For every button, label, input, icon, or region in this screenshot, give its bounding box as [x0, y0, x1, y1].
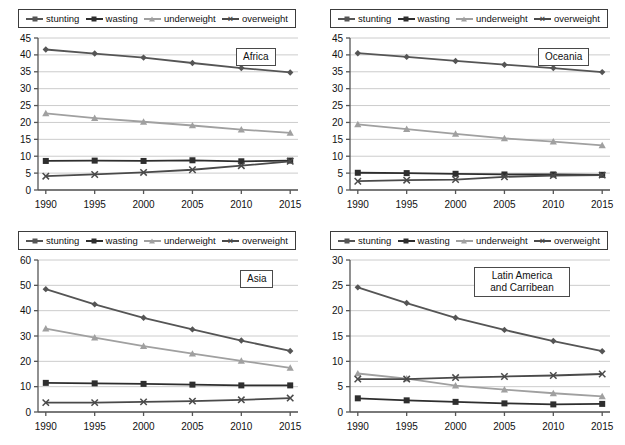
data-point-wasting: [189, 157, 195, 163]
y-tick-label: 40: [20, 49, 32, 60]
data-point-wasting: [599, 401, 605, 407]
x-tick-label: 1990: [35, 421, 58, 432]
data-point-stunting: [91, 50, 97, 56]
legend-label: underweight: [476, 236, 528, 246]
legend-item-underweight[interactable]: underweight: [144, 14, 216, 24]
data-point-stunting: [140, 315, 146, 321]
series-line-underweight: [46, 329, 290, 368]
legend-item-wasting[interactable]: wasting: [398, 236, 450, 246]
y-tick-label: 15: [332, 331, 344, 342]
data-point-stunting: [452, 58, 458, 64]
y-tick-label: 30: [20, 83, 32, 94]
data-point-stunting: [238, 337, 244, 343]
x-tick-label: 2000: [444, 421, 467, 432]
x-tick-label: 2005: [181, 199, 204, 210]
series-line-wasting: [358, 398, 602, 404]
x-tick-label: 2000: [132, 421, 155, 432]
legend-marker-square: [404, 16, 409, 21]
data-point-stunting: [43, 286, 49, 292]
series-line-overweight: [358, 175, 602, 181]
data-point-stunting: [599, 69, 605, 75]
legend-item-stunting[interactable]: stunting: [26, 236, 79, 246]
y-tick-label: 35: [332, 66, 344, 77]
y-tick-label: 45: [332, 33, 344, 44]
plot-latin: 051015202530199019952000200520102015: [312, 252, 625, 442]
legend-marker-square: [92, 238, 97, 243]
x-tick-label: 1990: [35, 199, 58, 210]
line-diamond-icon: [26, 14, 43, 23]
legend-label: wasting: [418, 14, 450, 24]
x-tick-label: 2010: [230, 199, 253, 210]
chart-svg: 051015202530199019952000200520102015: [312, 252, 624, 442]
legend-marker-square: [404, 238, 409, 243]
data-point-wasting: [238, 382, 244, 388]
legend-item-underweight[interactable]: underweight: [144, 236, 216, 246]
legend-item-underweight[interactable]: underweight: [456, 14, 528, 24]
legend-item-stunting[interactable]: stunting: [338, 236, 391, 246]
y-tick-label: 50: [20, 280, 32, 291]
data-point-wasting: [355, 395, 361, 401]
x-tick-label: 2005: [181, 421, 204, 432]
x-tick-label: 1990: [347, 199, 370, 210]
legend-marker-triangle: [461, 16, 467, 21]
y-tick-label: 0: [25, 407, 31, 418]
legend-item-overweight[interactable]: ×overweight: [534, 236, 600, 246]
line-x-icon: ×: [222, 236, 239, 245]
panel-asia: stuntingwastingunderweight×overweight 01…: [0, 222, 312, 445]
x-tick-label: 2010: [542, 421, 565, 432]
x-tick-label: 2010: [230, 421, 253, 432]
data-point-stunting: [287, 348, 293, 354]
panel-africa: stuntingwastingunderweight×overweight 05…: [0, 0, 312, 222]
legend-label: overweight: [554, 236, 600, 246]
legend-item-stunting[interactable]: stunting: [338, 14, 391, 24]
y-tick-label: 30: [332, 83, 344, 94]
data-point-wasting: [501, 400, 507, 406]
legend-marker-diamond: [344, 238, 349, 243]
y-tick-label: 60: [20, 255, 32, 266]
line-square-icon: [398, 14, 415, 23]
legend-label: overweight: [554, 14, 600, 24]
y-tick-label: 40: [332, 49, 344, 60]
legend-item-overweight[interactable]: ×overweight: [534, 14, 600, 24]
legend-marker-x: ×: [228, 236, 233, 245]
legend-marker-x: ×: [540, 236, 545, 245]
title-box-africa: Africa: [236, 48, 276, 66]
x-tick-label: 1995: [84, 421, 107, 432]
legend-africa: stuntingwastingunderweight×overweight: [18, 9, 296, 28]
line-x-icon: ×: [222, 14, 239, 23]
legend-marker-x: ×: [228, 14, 233, 23]
title-box-latin: Latin Americaand Carribean: [474, 267, 570, 297]
data-point-stunting: [501, 327, 507, 333]
chart-grid: stuntingwastingunderweight×overweight 05…: [0, 0, 625, 445]
legend-item-overweight[interactable]: ×overweight: [222, 236, 288, 246]
y-tick-label: 15: [20, 134, 32, 145]
legend-oceania: stuntingwastingunderweight×overweight: [330, 9, 608, 28]
panel-latin: stuntingwastingunderweight×overweight 05…: [312, 222, 625, 445]
data-point-stunting: [501, 61, 507, 67]
line-triangle-icon: [144, 14, 161, 23]
y-tick-label: 30: [332, 255, 344, 266]
line-x-icon: ×: [534, 14, 551, 23]
x-tick-label: 2015: [591, 421, 614, 432]
legend-marker-x: ×: [540, 14, 545, 23]
legend-item-overweight[interactable]: ×overweight: [222, 14, 288, 24]
data-point-wasting: [355, 170, 361, 176]
legend-item-wasting[interactable]: wasting: [86, 14, 138, 24]
legend-label: stunting: [358, 236, 391, 246]
y-tick-label: 10: [332, 356, 344, 367]
line-triangle-icon: [144, 236, 161, 245]
x-tick-label: 1995: [84, 199, 107, 210]
y-tick-label: 5: [337, 381, 343, 392]
legend-label: overweight: [242, 14, 288, 24]
series-line-overweight: [46, 161, 290, 176]
legend-item-stunting[interactable]: stunting: [26, 14, 79, 24]
legend-marker-triangle: [461, 238, 467, 243]
legend-label: underweight: [164, 236, 216, 246]
line-triangle-icon: [456, 14, 473, 23]
line-square-icon: [86, 236, 103, 245]
legend-item-underweight[interactable]: underweight: [456, 236, 528, 246]
data-point-stunting: [189, 326, 195, 332]
legend-item-wasting[interactable]: wasting: [86, 236, 138, 246]
legend-item-wasting[interactable]: wasting: [398, 14, 450, 24]
y-tick-label: 35: [20, 66, 32, 77]
